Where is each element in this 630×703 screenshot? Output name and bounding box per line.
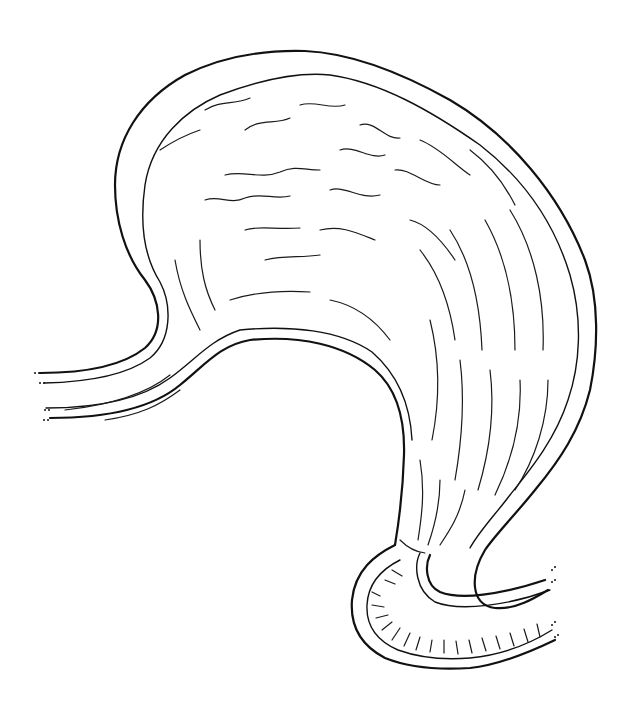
pylorus-inner-outline [367, 560, 552, 659]
stomach-drawing [0, 0, 630, 703]
duodenum-inner-upper [417, 553, 550, 607]
pyloric-sphincter [400, 540, 425, 553]
duodenal-folds [372, 570, 540, 654]
mucosa-outline-greater [44, 74, 578, 548]
duodenum-upper-outline [427, 555, 545, 596]
greater-curvature-outline [40, 51, 596, 608]
gastric-rugae-fundus [160, 98, 515, 260]
gastric-rugae-body [175, 210, 548, 545]
stomach-illustration: Stomach line illustration [0, 0, 630, 703]
esophagus-inner-line [46, 328, 412, 440]
esophagus-lower-outline [50, 339, 404, 545]
